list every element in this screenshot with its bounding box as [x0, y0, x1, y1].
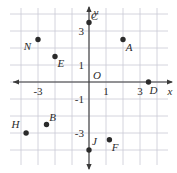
- y-tick-label: 3: [79, 25, 85, 37]
- point-marker: [86, 147, 91, 152]
- y-tick-label: -3: [75, 127, 85, 139]
- point-marker: [23, 130, 28, 135]
- y-tick-label: 1: [79, 59, 85, 71]
- point-label: C: [91, 10, 99, 22]
- x-tick-label: 1: [103, 85, 109, 97]
- point-label: A: [125, 41, 133, 53]
- point-marker: [35, 37, 40, 42]
- origin-label: O: [93, 69, 101, 81]
- coordinate-plane-svg: -31331-1-3 xyO CNAEDBHFJ: [0, 0, 177, 173]
- point-label: E: [56, 57, 64, 69]
- x-axis-label: x: [167, 85, 173, 97]
- point-label: D: [149, 84, 158, 96]
- x-tick-label: 3: [137, 85, 143, 97]
- y-tick-label: -1: [75, 93, 84, 105]
- point-label: B: [49, 111, 56, 123]
- point-label: H: [11, 118, 21, 130]
- coordinate-plane-figure: -31331-1-3 xyO CNAEDBHFJ: [0, 0, 177, 173]
- point-label: F: [111, 141, 119, 153]
- x-tick-label: -3: [33, 85, 43, 97]
- point-label: N: [23, 40, 32, 52]
